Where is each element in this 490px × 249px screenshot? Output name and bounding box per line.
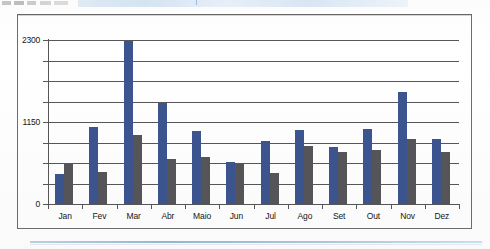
- gridline: [48, 61, 459, 62]
- category-axis-tick: [151, 204, 152, 209]
- category-axis-tick: [117, 204, 118, 209]
- bar-mar-series-1: [124, 41, 133, 204]
- value-axis-label: 0: [6, 199, 40, 209]
- category-axis-tick: [185, 204, 186, 209]
- bar-dez-series-2: [441, 152, 450, 204]
- bar-fev-series-2: [98, 172, 107, 204]
- bar-ago-series-2: [304, 146, 313, 204]
- bar-mar-series-2: [133, 135, 142, 204]
- bar-dez-series-1: [432, 139, 441, 204]
- value-axis-tick: [43, 143, 49, 144]
- bar-fev-series-1: [89, 127, 98, 204]
- value-axis-tick: [43, 184, 49, 185]
- bar-ago-series-1: [295, 130, 304, 204]
- category-axis-tick: [391, 204, 392, 209]
- category-axis-tick: [322, 204, 323, 209]
- bar-jul-series-1: [261, 141, 270, 204]
- scan-artifact-bottom-rule-2: [30, 244, 482, 245]
- bar-set-series-1: [329, 147, 338, 204]
- category-axis-tick: [82, 204, 83, 209]
- bar-nov-series-2: [407, 139, 416, 204]
- value-axis-label: 1150: [6, 117, 40, 127]
- category-axis-tick: [356, 204, 357, 209]
- category-axis-tick: [48, 204, 49, 209]
- gridline: [48, 40, 459, 41]
- scan-artifact-top-strip: [0, 0, 490, 10]
- bar-abr-series-2: [167, 159, 176, 204]
- bar-jun-series-1: [226, 162, 235, 204]
- value-axis-tick: [43, 102, 49, 103]
- bar-abr-series-1: [158, 103, 167, 204]
- value-axis-tick: [43, 122, 49, 123]
- category-axis-tick: [219, 204, 220, 209]
- value-axis-tick: [43, 163, 49, 164]
- bar-jul-series-2: [270, 173, 279, 204]
- value-axis-tick: [43, 61, 49, 62]
- category-axis-tick: [425, 204, 426, 209]
- bar-maio-series-1: [192, 131, 201, 204]
- bar-out-series-1: [363, 129, 372, 204]
- bar-maio-series-2: [201, 157, 210, 204]
- bar-jan-series-1: [55, 174, 64, 204]
- scan-smudge-right-icon: [78, 0, 408, 7]
- scan-artifact-bottom-rule: [30, 241, 482, 243]
- bar-set-series-2: [338, 152, 347, 204]
- scan-smudge-tick-icon: [196, 0, 197, 5]
- scan-smudge-left-icon: [2, 1, 68, 5]
- category-axis-tick: [254, 204, 255, 209]
- bar-out-series-2: [372, 150, 381, 204]
- value-axis-tick: [43, 81, 49, 82]
- bar-jan-series-2: [64, 163, 73, 204]
- category-label-dez: Dez: [420, 211, 464, 221]
- bar-nov-series-1: [398, 92, 407, 204]
- bar-jun-series-2: [235, 164, 244, 204]
- value-axis-tick: [43, 40, 49, 41]
- category-axis-tick: [459, 204, 460, 209]
- value-axis-label: 2300: [6, 35, 40, 45]
- category-axis-tick: [288, 204, 289, 209]
- gridline: [48, 81, 459, 82]
